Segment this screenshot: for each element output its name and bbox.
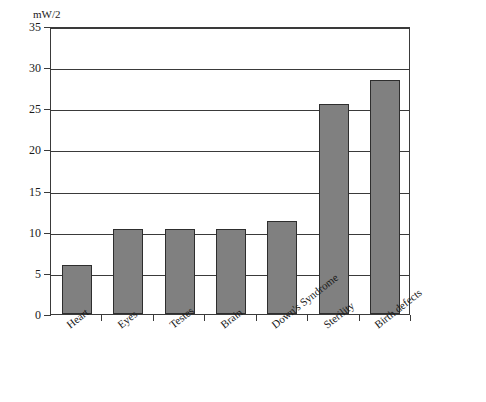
bar [113,229,143,314]
y-axis-tick-mark [44,109,51,110]
bar [62,265,92,314]
y-axis-tick-mark [44,233,51,234]
gridline [51,69,409,70]
gridline [51,151,409,152]
chart-title [0,0,486,2]
y-axis-tick-label: 5 [0,268,41,280]
plot-area [50,27,410,315]
x-axis-tick-mark [204,315,205,321]
x-axis-tick-mark [307,315,308,321]
bar-chart-figure: mW/2 05101520253035 HeartEyesTestesBrain… [0,0,486,402]
bar [267,221,297,314]
y-axis-tick-label: 0 [0,309,41,321]
y-axis-tick-label: 10 [0,227,41,239]
x-axis-tick-mark [153,315,154,321]
gridline [51,110,409,111]
bar [216,229,246,314]
x-axis-tick-mark [256,315,257,321]
y-axis-tick-label: 30 [0,62,41,74]
y-axis-tick-mark [44,274,51,275]
x-axis-tick-mark [359,315,360,321]
bar [165,229,195,314]
y-axis-tick-label: 25 [0,103,41,115]
gridline [51,193,409,194]
y-axis-tick-mark [44,150,51,151]
y-axis-tick-mark [44,315,51,316]
y-axis-tick-mark [44,68,51,69]
y-axis-tick-label: 20 [0,144,41,156]
gridline [51,28,409,29]
y-axis-unit-label: mW/2 [33,8,61,20]
x-axis-tick-mark [410,315,411,321]
y-axis-tick-label: 35 [0,21,41,33]
y-axis-tick-label: 15 [0,186,41,198]
y-axis-tick-mark [44,27,51,28]
bar [370,80,400,315]
x-axis-tick-mark [101,315,102,321]
y-axis-tick-mark [44,192,51,193]
